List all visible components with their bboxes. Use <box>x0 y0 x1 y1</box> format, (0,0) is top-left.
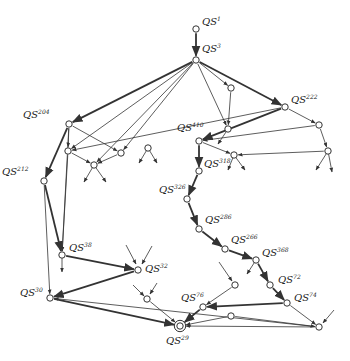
transition-edge <box>273 288 284 300</box>
state-node <box>144 296 150 302</box>
stub-edge <box>150 283 157 294</box>
state-node <box>41 178 47 184</box>
transition-edge <box>238 151 324 155</box>
final-state-node <box>177 323 183 329</box>
stub-edge <box>142 246 152 264</box>
transition-edge <box>229 250 252 258</box>
state-label: QS266 <box>231 233 258 245</box>
state-node <box>225 126 231 132</box>
transition-edge <box>62 155 68 251</box>
transition-edge <box>54 271 134 296</box>
transition-edge <box>73 62 192 122</box>
state-label: QS32 <box>145 262 168 274</box>
state-node <box>228 313 234 319</box>
state-node <box>200 304 206 310</box>
transition-edge <box>150 302 175 322</box>
transition-edge <box>186 326 315 327</box>
state-node <box>91 162 97 168</box>
state-node <box>118 150 124 156</box>
transition-edge <box>203 109 281 140</box>
state-node <box>284 300 290 306</box>
state-node <box>66 121 72 127</box>
transition-edge <box>66 256 134 269</box>
state-node <box>282 104 288 110</box>
transition-edge <box>200 62 282 105</box>
transition-edge <box>207 303 283 307</box>
state-label: QS286 <box>205 213 232 225</box>
stub-edge <box>126 245 136 264</box>
state-graph: QS1QS3QS222QS204QS410QS318QS212QS326QS28… <box>0 0 350 361</box>
state-node <box>47 295 53 301</box>
transition-edge <box>124 63 194 149</box>
transition-edge <box>189 203 198 225</box>
nodes-layer <box>41 26 331 332</box>
transition-edge <box>185 310 200 322</box>
transition-edge <box>46 128 68 177</box>
transition-edge <box>203 143 230 154</box>
state-node <box>196 138 202 144</box>
state-node <box>135 267 141 273</box>
state-node <box>316 324 322 330</box>
state-label: QS29 <box>166 334 189 346</box>
stub-edge <box>323 310 334 323</box>
state-node <box>325 148 331 154</box>
state-label: QS204 <box>23 108 50 120</box>
transition-edge <box>186 317 227 325</box>
transition-edge <box>289 109 316 123</box>
state-node <box>228 85 234 91</box>
transition-edge <box>54 299 174 325</box>
state-node <box>253 257 259 263</box>
state-node <box>222 246 228 252</box>
state-label: QS38 <box>69 241 92 253</box>
state-label: QS30 <box>20 286 43 298</box>
state-label: QS1 <box>202 15 221 27</box>
state-node <box>196 168 202 174</box>
state-node <box>316 122 322 128</box>
state-node <box>193 57 199 63</box>
transition-edge <box>290 306 315 325</box>
state-label: QS3 <box>202 42 221 54</box>
transition-edge <box>98 155 117 164</box>
state-node <box>65 148 71 154</box>
state-label: QS318 <box>204 157 231 169</box>
state-label: QS72 <box>278 273 301 285</box>
state-label: QS74 <box>294 291 317 303</box>
state-label: QS222 <box>291 93 318 105</box>
state-label: QS326 <box>159 183 186 195</box>
state-label: QS368 <box>262 246 289 258</box>
transition-edge <box>206 287 231 304</box>
transition-edge <box>72 153 91 163</box>
stub-edge <box>133 285 144 296</box>
transition-edge <box>320 129 326 147</box>
state-node <box>267 282 273 288</box>
transition-edge <box>73 126 118 151</box>
state-node <box>232 282 238 288</box>
state-node <box>193 26 199 32</box>
stub-edge <box>219 262 232 281</box>
transition-edge <box>228 92 230 125</box>
state-node <box>145 145 151 151</box>
state-node <box>231 152 237 158</box>
state-node <box>59 252 65 258</box>
state-label: QS212 <box>2 165 29 177</box>
transition-edge <box>189 175 198 195</box>
transition-edge <box>202 232 221 247</box>
transition-edge <box>258 264 268 282</box>
state-label: QS410 <box>177 121 204 133</box>
state-label: QS76 <box>181 291 204 303</box>
state-node <box>196 226 202 232</box>
state-node <box>184 196 190 202</box>
